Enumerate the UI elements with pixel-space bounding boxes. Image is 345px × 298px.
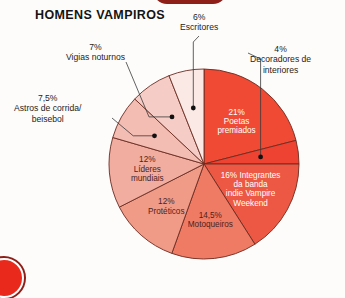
pie-slice-label-line: Weekend — [233, 199, 268, 208]
pie-slice-label-line: Líderes — [134, 165, 161, 174]
pie-slice-label-line: Protéticos — [148, 207, 184, 216]
callout-leader-dot — [191, 106, 196, 111]
callout-escritores-pct: 6% — [180, 12, 218, 22]
callout-decoradores-name-1: Decoradores de — [250, 54, 311, 64]
callout-decoradores-pct: 4% — [250, 44, 311, 54]
pie-slice-label-line: indie Vampire — [226, 189, 276, 198]
callout-escritores: 6% Escritores — [180, 12, 218, 33]
callout-astros-pct: 7,5% — [14, 93, 81, 103]
pie-slice-label-line: 16% Integrantes — [221, 171, 281, 180]
pie-slice-label-line: Poetas — [224, 117, 250, 126]
pie-slice-label-line: 21% — [228, 108, 244, 117]
pie-slice-label-line: premiados — [217, 126, 255, 135]
pie-slice-label-line: 12% — [158, 197, 174, 206]
callout-leader-dot — [152, 133, 157, 138]
callout-vigias-noturnos: 7% Vigias noturnos — [66, 42, 125, 63]
callout-decoradores-name-2: interiores — [250, 65, 311, 75]
pie-slice-label-line: da banda — [234, 180, 269, 189]
callout-astros: 7,5% Astros de corrida/ beisebol — [14, 93, 81, 124]
callout-leader-dot — [170, 115, 175, 120]
callout-astros-name-1: Astros de corrida/ — [14, 103, 81, 113]
callout-leader-dot — [258, 155, 263, 160]
callout-astros-name-2: beisebol — [14, 114, 81, 124]
callout-escritores-name: Escritores — [180, 22, 218, 32]
callout-vigias-name: Vigias noturnos — [66, 52, 125, 62]
pie-slice-label-line: 14,5% — [199, 211, 222, 220]
pie-slice-label-line: 12% — [139, 155, 155, 164]
callout-decoradores: 4% Decoradores de interiores — [250, 44, 311, 75]
pie-slice-label-line: mundiais — [131, 174, 164, 183]
callout-vigias-pct: 7% — [66, 42, 125, 52]
pie-slice-label-line: Motoqueiros — [188, 220, 233, 229]
